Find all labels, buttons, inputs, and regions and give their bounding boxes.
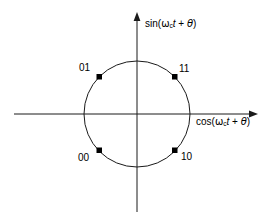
y-axis-label: sin(ωct + θ) <box>145 19 196 30</box>
constellation-point-11 <box>172 74 178 80</box>
point-label-11: 11 <box>179 64 189 74</box>
y-axis-close-paren: ) <box>193 18 196 29</box>
figure-background <box>0 0 271 224</box>
constellation-point-10 <box>172 148 178 154</box>
x-axis-function: cos <box>196 116 212 127</box>
x-axis-plus-sign: + <box>232 116 238 127</box>
point-label-01: 01 <box>79 63 90 73</box>
y-axis-time-variable: t <box>173 18 176 29</box>
x-axis-label: cos(ωct + θ) <box>196 117 250 128</box>
constellation-point-00 <box>97 148 103 154</box>
point-label-10: 10 <box>181 152 192 162</box>
y-axis-plus-sign: + <box>178 18 184 29</box>
point-label-00: 00 <box>78 153 89 163</box>
y-axis-omega-symbol: ω <box>161 18 169 29</box>
constellation-diagram <box>0 0 271 224</box>
constellation-point-01 <box>97 74 103 80</box>
x-axis-time-variable: t <box>227 116 230 127</box>
x-axis-close-paren: ) <box>247 116 250 127</box>
y-axis-function: sin <box>145 18 158 29</box>
